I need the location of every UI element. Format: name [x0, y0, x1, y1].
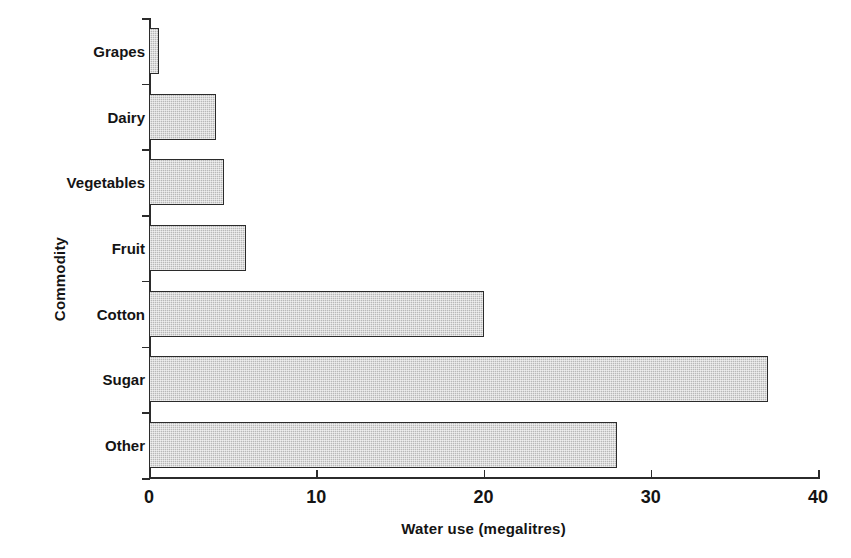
bar [149, 422, 617, 468]
y-axis-tick-label: Sugar [0, 372, 145, 387]
plot-area [149, 18, 818, 478]
x-axis-tick-label: 0 [119, 487, 179, 508]
y-axis-tick [142, 215, 150, 217]
y-axis-tick [142, 18, 150, 20]
x-axis-tick [316, 470, 318, 479]
bar [149, 28, 159, 74]
y-axis-tick [142, 347, 150, 349]
x-axis-tick [484, 470, 486, 479]
y-axis-tick-labels: GrapesDairyVegetablesFruitCottonSugarOth… [0, 0, 145, 558]
x-axis-tick [818, 470, 820, 479]
bar-chart: Commodity GrapesDairyVegetablesFruitCott… [0, 0, 851, 558]
y-axis-tick-label: Vegetables [0, 175, 145, 190]
bar [149, 159, 224, 205]
bar [149, 291, 484, 337]
y-axis-tick-label: Dairy [0, 109, 145, 124]
bar [149, 94, 216, 140]
bar [149, 225, 246, 271]
y-axis-tick-label: Grapes [0, 43, 145, 58]
x-axis-tick-label: 40 [788, 487, 848, 508]
y-axis-tick-label: Cotton [0, 306, 145, 321]
x-axis-tick [149, 470, 151, 479]
y-axis-tick [142, 84, 150, 86]
bar [149, 356, 768, 402]
x-axis-tick-label: 10 [286, 487, 346, 508]
y-axis-tick-label: Fruit [0, 241, 145, 256]
x-axis-tick [651, 470, 653, 479]
y-axis-tick-label: Other [0, 438, 145, 453]
x-axis-tick-label: 20 [454, 487, 514, 508]
x-axis-title: Water use (megalitres) [149, 520, 818, 537]
x-axis-tick-label: 30 [621, 487, 681, 508]
y-axis-tick [142, 149, 150, 151]
y-axis-tick [142, 412, 150, 414]
y-axis-tick [142, 281, 150, 283]
